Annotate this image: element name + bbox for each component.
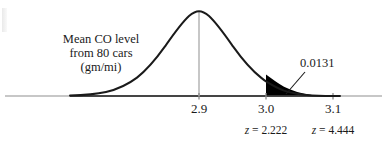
x-tick-label-3-0: 3.0 bbox=[246, 102, 286, 117]
z-value-1: 4.444 bbox=[328, 124, 354, 136]
shaded-area-value-label: 0.0131 bbox=[300, 56, 334, 70]
normal-distribution-figure: Mean CO level from 80 cars (gm/mi) 0.013… bbox=[0, 0, 392, 150]
curve-label-line-2: from 80 cars bbox=[46, 46, 156, 60]
curve-label-line-3: (gm/mi) bbox=[46, 60, 156, 74]
z-score-label-3-0: z = 2.222 bbox=[231, 124, 301, 137]
x-tick-label-2-9: 2.9 bbox=[179, 102, 219, 117]
z-value-0: 2.222 bbox=[261, 124, 287, 136]
z-score-label-3-1: z = 4.444 bbox=[298, 124, 368, 137]
x-tick-label-3-1: 3.1 bbox=[313, 102, 353, 117]
curve-label-line-1: Mean CO level bbox=[46, 32, 156, 46]
curve-label: Mean CO level from 80 cars (gm/mi) bbox=[46, 32, 156, 74]
shaded-tail-area bbox=[266, 75, 340, 96]
annotation-leader-line bbox=[286, 72, 305, 94]
z-equals-0: = bbox=[249, 124, 261, 136]
z-equals-1: = bbox=[316, 124, 328, 136]
